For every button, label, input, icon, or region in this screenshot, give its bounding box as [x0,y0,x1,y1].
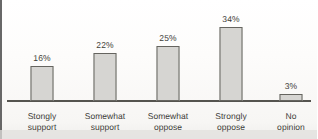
category-label-no-opinion: No opinion [260,111,318,133]
category-label-line-2: oppose [200,122,263,133]
category-label-line-1: No [260,111,318,122]
bar-somewhat-oppose[interactable] [157,46,180,101]
category-label-line-1: Stongly [11,111,74,122]
bar-group-somewhat-oppose: 25% Somewhat oppose [137,0,200,139]
bar-chart-figure: 16% Stongly support 22% Somewhat support… [0,0,317,139]
bar-stongly-support[interactable] [31,66,54,101]
bar-value-somewhat-support: 22% [96,41,113,50]
bar-group-no-opinion: 3% No opinion [260,0,318,139]
category-label-line-1: Somewhat [137,111,200,122]
bar-strongly-oppose[interactable] [220,27,243,101]
category-label-line-2: support [74,122,137,133]
category-label-somewhat-oppose: Somewhat oppose [137,111,200,133]
bar-value-stongly-support: 16% [33,54,50,63]
bar-value-somewhat-oppose: 25% [159,34,176,43]
bar-group-strongly-oppose: 34% Strongly oppose [200,0,263,139]
bar-no-opinion[interactable] [280,94,303,101]
category-label-line-2: oppose [137,122,200,133]
category-label-somewhat-support: Somewhat support [74,111,137,133]
category-label-line-2: support [11,122,74,133]
category-label-line-2: opinion [260,122,318,133]
plot-area: 16% Stongly support 22% Somewhat support… [0,0,317,139]
category-label-line-1: Strongly [200,111,263,122]
bar-value-no-opinion: 3% [285,82,298,91]
bar-value-strongly-oppose: 34% [222,15,239,24]
category-label-line-1: Somewhat [74,111,137,122]
bar-group-somewhat-support: 22% Somewhat support [74,0,137,139]
category-label-stongly-support: Stongly support [11,111,74,133]
category-label-strongly-oppose: Strongly oppose [200,111,263,133]
bar-somewhat-support[interactable] [94,53,117,101]
bar-group-stongly-support: 16% Stongly support [11,0,74,139]
